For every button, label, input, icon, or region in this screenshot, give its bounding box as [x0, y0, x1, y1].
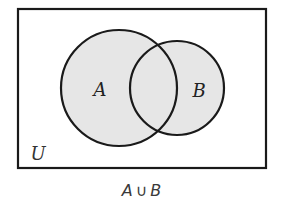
venn-diagram: A B U: [0, 0, 284, 204]
caption-union-operator: ∪: [136, 181, 149, 200]
caption-set-b: B: [150, 181, 162, 200]
caption-set-a: A: [122, 181, 134, 200]
universe-label: U: [30, 143, 46, 164]
set-a-label: A: [92, 79, 107, 100]
set-b-label: B: [191, 80, 205, 101]
diagram-caption: A∪B: [0, 181, 284, 200]
